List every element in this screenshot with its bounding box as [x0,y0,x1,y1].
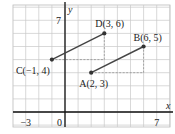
x-tick-0: 0 [57,117,62,128]
point-c [50,58,54,62]
point-a [89,71,93,75]
coordinate-plane-figure: y x 7 −3 0 7 A(2, 3) B(6, 5) C(−1, 4) D(… [0,0,175,134]
point-label-d: D(3, 6) [95,18,124,30]
coordinate-plane: y x 7 −3 0 7 A(2, 3) B(6, 5) C(−1, 4) D(… [0,0,175,134]
point-d [102,31,106,35]
point-b [142,44,146,48]
segments [52,33,144,72]
point-label-c: C(−1, 4) [16,65,50,77]
y-tick-7: 7 [56,15,61,26]
point-label-b: B(6, 5) [134,32,162,44]
x-axis-label: x [165,100,171,111]
x-tick-7: 7 [154,117,159,128]
y-axis-label: y [67,4,73,15]
point-label-a: A(2, 3) [79,78,108,90]
x-tick-neg3: −3 [20,117,31,128]
